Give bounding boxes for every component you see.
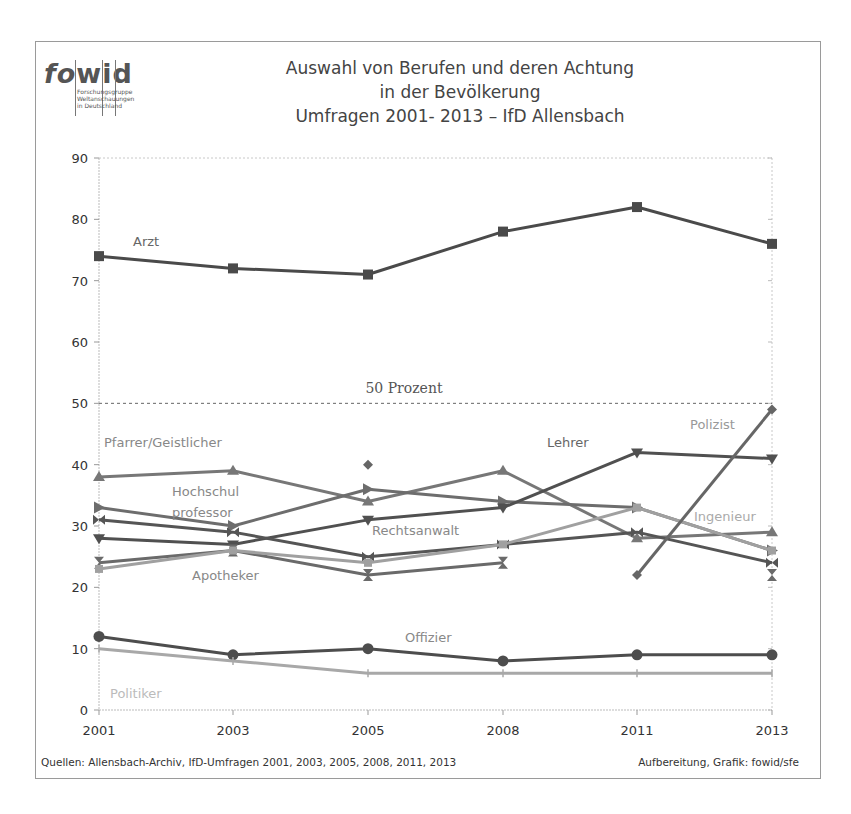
- marker-square: [364, 559, 372, 567]
- series-label: Polizist: [690, 417, 735, 432]
- series-label: professor: [172, 505, 233, 520]
- marker-diamond: [363, 460, 373, 470]
- marker-circle: [498, 655, 509, 666]
- y-tick-label: 20: [71, 580, 88, 595]
- y-tick-label: 30: [71, 519, 88, 534]
- credit-note: Aufbereitung, Grafik: fowid/sfe: [638, 756, 799, 768]
- x-tick-label: 2011: [620, 723, 653, 738]
- series-label: Hochschul: [172, 484, 239, 499]
- marker-square: [498, 227, 508, 237]
- marker-square: [228, 263, 238, 273]
- y-tick-label: 40: [71, 458, 88, 473]
- marker-square: [95, 565, 103, 573]
- marker-square: [229, 547, 237, 555]
- marker-circle: [94, 631, 105, 642]
- marker-square: [632, 202, 642, 212]
- x-tick-label: 2001: [82, 723, 115, 738]
- series-line-polizist: [637, 409, 772, 575]
- y-tick-label: 50: [71, 396, 88, 411]
- marker-circle: [632, 649, 643, 660]
- x-tick-label: 2005: [351, 723, 384, 738]
- marker-square: [768, 547, 776, 555]
- marker-circle: [767, 649, 778, 660]
- y-tick-label: 80: [71, 212, 88, 227]
- series-label: Ingenieur: [694, 509, 756, 524]
- y-tick-label: 10: [71, 642, 88, 657]
- y-tick-label: 70: [71, 274, 88, 289]
- marker-square: [363, 270, 373, 280]
- series-line-politiker: [99, 649, 772, 674]
- y-tick-label: 0: [80, 703, 88, 718]
- series-label: Arzt: [133, 234, 159, 249]
- series-label: Offizier: [405, 630, 452, 645]
- series-label: Pfarrer/Geistlicher: [104, 435, 222, 450]
- series-label: Politiker: [110, 686, 162, 701]
- marker-square: [767, 239, 777, 249]
- reference-line-label: 50 Prozent: [365, 380, 442, 396]
- x-tick-label: 2013: [755, 723, 788, 738]
- x-tick-label: 2008: [486, 723, 519, 738]
- series-line-apotheker: [99, 551, 503, 576]
- sources-note: Quellen: Allensbach-Archiv, IfD-Umfragen…: [41, 756, 456, 768]
- y-tick-label: 90: [71, 151, 88, 166]
- marker-triangle-up: [497, 465, 509, 475]
- marker-triangle-right: [363, 483, 374, 495]
- marker-square: [94, 251, 104, 261]
- y-tick-label: 60: [71, 335, 88, 350]
- series-label: Apotheker: [192, 568, 259, 583]
- series-label: Rechtsanwalt: [372, 523, 459, 538]
- series-line-arzt: [99, 207, 772, 274]
- series-label: Lehrer: [547, 435, 589, 450]
- marker-square: [633, 504, 641, 512]
- line-chart: 0102030405060708090200120032005200820112…: [0, 0, 851, 814]
- x-tick-label: 2003: [216, 723, 249, 738]
- marker-square: [499, 540, 507, 548]
- marker-circle: [363, 643, 374, 654]
